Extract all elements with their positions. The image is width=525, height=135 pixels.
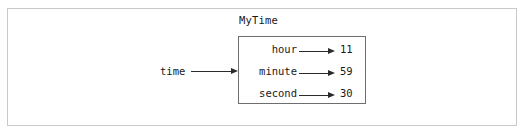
object-title: MyTime [239, 14, 278, 27]
attribute-arrow-shaft [299, 95, 330, 96]
attribute-value-second: 30 [340, 86, 353, 100]
reference-arrow-icon [191, 68, 238, 75]
attribute-name-hour: hour [272, 42, 297, 56]
reference-arrow-shaft [191, 71, 232, 72]
attribute-row-hour: hour 11 [239, 38, 365, 60]
reference-arrow-head [231, 68, 238, 74]
attribute-name-minute: minute [259, 64, 297, 78]
attribute-arrow-shaft [299, 73, 330, 74]
reference-label-time: time [160, 64, 185, 78]
attribute-row-second: second 30 [239, 82, 365, 104]
attribute-arrow-head [328, 48, 335, 54]
object-box: hour 11 minute 59 second 30 [238, 36, 366, 104]
attribute-arrow-icon-hour [299, 48, 336, 55]
figure-canvas: time MyTime hour 11 minute 59 second [0, 0, 525, 135]
attribute-arrow-head [328, 70, 335, 76]
attribute-arrow-icon-minute [299, 70, 336, 77]
attribute-arrow-icon-second [299, 92, 336, 99]
attribute-arrow-head [328, 92, 335, 98]
attribute-value-minute: 59 [340, 64, 353, 78]
attribute-value-hour: 11 [340, 42, 353, 56]
attribute-name-second: second [259, 86, 297, 100]
attribute-row-minute: minute 59 [239, 60, 365, 82]
attribute-arrow-shaft [299, 51, 330, 52]
